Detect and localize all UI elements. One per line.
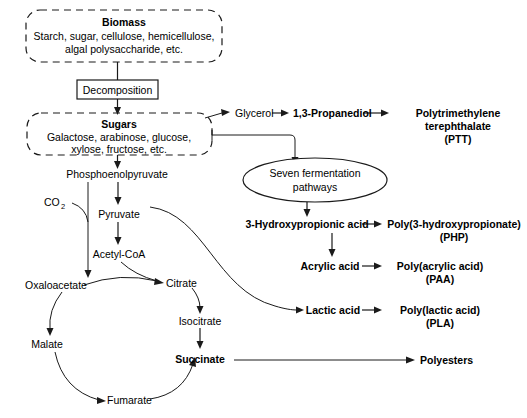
node-php-line2: (PHP) [440,231,469,243]
arrowhead-acetylcoa [115,237,122,245]
edge-sugars-glycerol [205,113,222,118]
node-succinate: Succinate [175,353,225,365]
fermentation-line1: Seven fermentation [269,167,360,179]
arrowhead-propanediol [281,110,289,117]
biomass-line1: Starch, sugar, cellulose, hemicellulose, [34,30,215,42]
sugars-line2: xylose, fructose, etc. [71,143,167,155]
node-co2-subscript: 2 [61,202,65,211]
biomass-line2: algal polysaccharide, etc. [65,43,183,55]
node-pyruvate: Pyruvate [98,208,140,220]
node-phosphoenolpyruvate: Phosphoenolpyruvate [66,168,168,180]
node-oxaloacetate: Oxaloacetate [25,279,87,291]
node-pla-line1: Poly(lactic acid) [400,304,480,316]
fermentation-ellipse [243,158,387,202]
arrowhead-pla [374,307,382,314]
node-php-line1: Poly(3-hydroxypropionate) [387,218,521,230]
arrowhead-citrate [154,278,164,285]
node-lactic: Lactic acid [306,304,360,316]
node-co2: CO 2 [44,196,65,211]
arrowhead-ptt [381,110,389,117]
arrowhead-oxaloacetate [85,270,92,278]
arrowhead-php [374,221,382,228]
node-ptt-line1: Polytrimethylene [416,107,501,119]
sugars-heading: Sugars [101,118,137,130]
node-pla-line2: (PLA) [426,317,454,329]
node-acrylic: Acrylic acid [301,260,360,272]
node-propanediol: 1,3-Propanediol [293,107,372,119]
decomposition-label: Decomposition [83,84,153,96]
node-paa-line1: Poly(acrylic acid) [397,260,483,272]
arrowhead-decomposition-sugars [114,107,121,115]
diagram-canvas: Biomass Starch, sugar, cellulose, hemice… [0,0,527,418]
arrowhead-isocitrate [197,306,204,314]
edge-oxaloacetate-citrate [84,277,157,285]
edge-sugars-fermentation [212,135,295,160]
arrowhead-pyruvate [115,197,122,205]
node-polyesters: Polyesters [420,354,473,366]
edge-co2-join [72,203,88,222]
pathway-diagram: Biomass Starch, sugar, cellulose, hemice… [0,0,527,418]
arrowhead-malate [47,328,54,336]
node-isocitrate: Isocitrate [179,315,222,327]
edge-citrate-isocitrate [192,288,200,308]
sugars-line1: Galactose, arabinose, glucose, [47,131,191,143]
edge-fumarate-succinate [150,364,193,399]
arrowhead-hydroxypropionic [304,209,311,217]
node-acetyl-coa: Acetyl-CoA [93,248,146,260]
node-co2-text: CO [44,196,60,208]
arrowhead-succinate-top [197,341,204,349]
arrowhead-lactic [296,307,304,314]
fermentation-line2: pathways [293,181,337,193]
arrowhead-polyesters [406,357,415,364]
arrowhead-fumarate [97,397,106,404]
arrowhead-glycerol [221,109,230,116]
node-glycerol: Glycerol [235,107,274,119]
arrowhead-paa [374,263,382,270]
edge-oxaloacetate-malate [50,292,62,330]
biomass-heading: Biomass [102,16,146,28]
node-ptt-line3: (PTT) [445,133,472,145]
node-malate: Malate [31,338,63,350]
node-fumarate: Fumarate [107,394,152,406]
node-paa-line2: (PAA) [426,273,454,285]
edge-malate-fumarate [55,352,99,400]
node-citrate: Citrate [166,277,197,289]
arrowhead-acrylic [329,249,336,257]
node-ptt-line2: terephthalate [425,120,491,132]
node-hydroxypropionic: 3-Hydroxypropionic acid [245,218,368,230]
